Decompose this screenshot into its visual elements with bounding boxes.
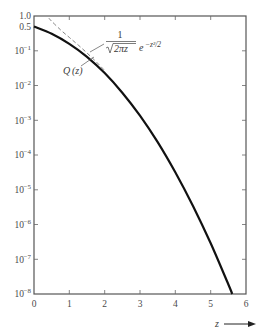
svg-text:Q: Q (63, 65, 71, 76)
svg-text:−6: −6 (24, 218, 32, 226)
y-ticks (34, 51, 246, 259)
svg-text:−2: −2 (24, 79, 32, 87)
svg-text:−3: −3 (24, 114, 32, 122)
formula-leader-line (90, 44, 104, 52)
x-tick-1: 1 (67, 299, 72, 309)
x-tick-0: 0 (32, 299, 37, 309)
svg-text:−1: −1 (24, 44, 32, 52)
y-tick-1e-8: 10 −8 (15, 287, 32, 299)
svg-text:2πz: 2πz (114, 43, 128, 54)
svg-text:−5: −5 (24, 183, 32, 191)
x-tick-2: 2 (102, 299, 107, 309)
y-tick-1e-3: 10 −3 (15, 114, 32, 126)
svg-text:z: z (214, 318, 219, 329)
svg-text:−7: −7 (24, 253, 32, 261)
q-function-chart: 0 1 2 3 4 5 6 1.0 0.5 10 −1 10 −2 10 −3 … (0, 0, 259, 334)
y-tick-1e-1: 10 −1 (15, 44, 32, 56)
formula-annotation: 1 2πz e −z²/2 (106, 29, 161, 54)
y-tick-1e-5: 10 −5 (15, 183, 32, 195)
y-tick-labels: 1.0 0.5 10 −1 10 −2 10 −3 10 −4 10 −5 10… (15, 11, 32, 299)
bound-curve-dashed (49, 18, 105, 70)
q-label: Q (z) (63, 65, 83, 77)
svg-text:e: e (139, 42, 144, 53)
y-tick-1e-6: 10 −6 (15, 218, 32, 230)
x-tick-5: 5 (208, 299, 213, 309)
y-tick-1e-7: 10 −7 (15, 253, 32, 265)
svg-text:(z): (z) (72, 65, 83, 77)
x-ticks (69, 16, 210, 294)
y-tick-0.5: 0.5 (19, 22, 31, 32)
x-axis-label: z (214, 318, 256, 329)
y-tick-1e-4: 10 −4 (15, 148, 32, 160)
x-tick-labels: 0 1 2 3 4 5 6 (32, 299, 249, 309)
svg-text:−4: −4 (24, 148, 32, 156)
y-tick-1e-2: 10 −2 (15, 79, 32, 91)
x-tick-3: 3 (138, 299, 143, 309)
y-tick-1: 1.0 (19, 11, 31, 21)
x-tick-6: 6 (244, 299, 249, 309)
svg-text:−8: −8 (24, 287, 32, 295)
svg-text:1: 1 (118, 29, 123, 40)
x-tick-4: 4 (173, 299, 178, 309)
svg-text:−z²/2: −z²/2 (145, 40, 161, 49)
